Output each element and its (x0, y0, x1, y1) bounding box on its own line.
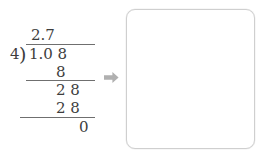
worksheet-canvas: 2.7 4 ) 1.0 8 8 2 8 2 8 0 (0, 0, 268, 157)
subtrahend-two-value: 2 8 (56, 101, 80, 116)
subtrahend-one-value: 8 (56, 65, 66, 80)
long-division-problem: 2.7 4 ) 1.0 8 8 2 8 2 8 0 (0, 0, 100, 157)
quotient-value: 2.7 (31, 28, 55, 43)
dividend-value: 1.0 8 (29, 47, 67, 62)
division-bracket-icon: ) (19, 45, 26, 64)
remainder-one-value: 2 8 (56, 83, 80, 98)
final-remainder-value: 0 (79, 120, 89, 135)
arrow-right-icon (103, 69, 120, 86)
answer-input-box[interactable] (126, 9, 255, 149)
